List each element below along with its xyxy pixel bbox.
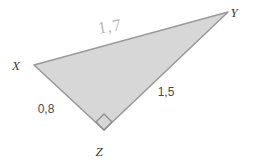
triangle-figure: X Y Z 1,7 0,8 1,5 (0, 0, 253, 161)
geometry-diagram: X Y Z 1,7 0,8 1,5 (0, 0, 253, 161)
side-label-xz: 0,8 (38, 102, 55, 116)
vertex-label-x: X (11, 58, 21, 73)
triangle-xyz-shape (34, 12, 228, 130)
side-label-zy: 1,5 (158, 85, 175, 99)
side-label-xy: 1,7 (96, 15, 123, 38)
vertex-label-y: Y (230, 5, 239, 20)
vertex-label-z: Z (95, 144, 103, 159)
